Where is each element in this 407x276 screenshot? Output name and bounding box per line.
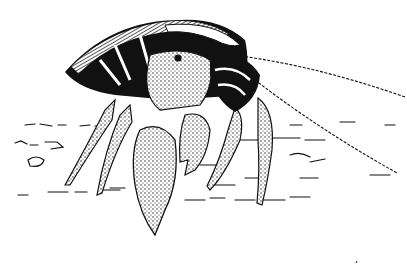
crab-body — [147, 51, 212, 110]
large-claw — [133, 127, 176, 235]
stray-mark — [356, 261, 357, 263]
shell-opening — [210, 54, 260, 112]
small-claw — [180, 114, 210, 175]
hermit-crab-illustration — [0, 0, 407, 276]
